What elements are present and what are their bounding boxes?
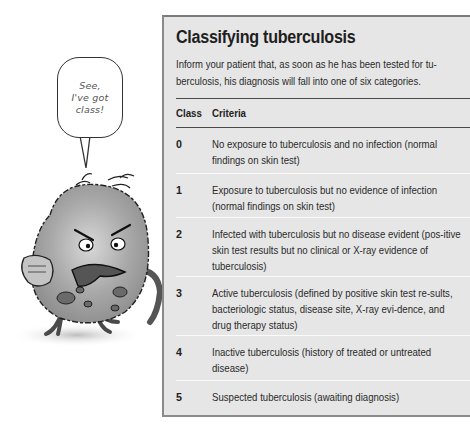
criteria-value: Active tuberculosis (defined by positive… [212, 285, 469, 333]
header-class: Class [176, 107, 208, 119]
header-criteria: Criteria [212, 107, 446, 119]
class-value: 3 [176, 285, 212, 301]
classification-table: Class Criteria 0 No exposure to tubercul… [176, 98, 470, 416]
speech-bubble-text: See, I've got class! [71, 80, 108, 116]
classification-panel: Classifying tuberculosis Inform your pat… [162, 15, 470, 417]
speech-bubble: See, I've got class! [57, 57, 123, 138]
class-value: 4 [176, 344, 212, 360]
table-row: 3 Active tuberculosis (defined by positi… [176, 277, 470, 336]
panel-title: Classifying tuberculosis [176, 27, 446, 48]
criteria-value: Suspected tuberculosis (awaiting diagnos… [212, 389, 469, 405]
page: See, I've got class! Classifying tubercu… [0, 0, 470, 438]
class-value: 2 [176, 226, 212, 242]
germ-illustration: See, I've got class! [0, 40, 165, 370]
table-header-row: Class Criteria [176, 98, 470, 128]
criteria-value: No exposure to tuberculosis and no infec… [212, 136, 469, 168]
criteria-value: Inactive tuberculosis (history of treate… [212, 344, 469, 376]
table-row: 4 Inactive tuberculosis (history of trea… [176, 336, 470, 381]
table-row: 2 Infected with tuberculosis but no dise… [176, 218, 470, 277]
table-row: 0 No exposure to tuberculosis and no inf… [176, 128, 470, 174]
criteria-value: Infected with tuberculosis but no diseas… [212, 226, 469, 274]
table-row: 5 Suspected tuberculosis (awaiting diagn… [176, 381, 470, 416]
panel-intro-text: Inform your patient that, as soon as he … [176, 56, 446, 90]
table-row: 1 Exposure to tuberculosis but no eviden… [176, 174, 470, 218]
criteria-value: Exposure to tuberculosis but no evidence… [212, 182, 469, 214]
class-value: 1 [176, 182, 212, 198]
class-value: 5 [176, 389, 212, 405]
class-value: 0 [176, 136, 212, 152]
